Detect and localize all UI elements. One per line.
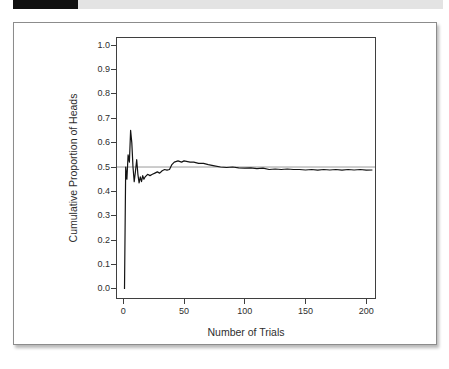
x-tick-mark <box>184 299 185 304</box>
y-tick-label: 0.0 <box>74 283 110 294</box>
y-tick-mark <box>111 69 116 70</box>
y-tick-mark <box>111 142 116 143</box>
x-tick-mark <box>305 299 306 304</box>
x-tick-mark <box>244 299 245 304</box>
y-tick-label: 0.2 <box>74 235 110 246</box>
plot-svg <box>116 37 376 299</box>
y-tick-mark <box>111 288 116 289</box>
x-tick-label: 100 <box>230 306 260 317</box>
figure-card: Number of Trials Cumulative Proportion o… <box>13 22 437 345</box>
x-tick-mark <box>366 299 367 304</box>
data-line <box>125 130 373 289</box>
x-tick-label: 150 <box>291 306 321 317</box>
y-tick-label: 1.0 <box>74 40 110 51</box>
screenshot-root: { "window": { "tab_color": "#101010", "b… <box>0 0 449 369</box>
x-tick-label: 200 <box>351 306 381 317</box>
y-tick-label: 0.4 <box>74 186 110 197</box>
y-tick-label: 0.1 <box>74 259 110 270</box>
y-tick-label: 0.7 <box>74 113 110 124</box>
y-tick-mark <box>111 118 116 119</box>
y-tick-label: 0.6 <box>74 137 110 148</box>
y-tick-label: 0.5 <box>74 162 110 173</box>
y-tick-mark <box>111 240 116 241</box>
window-active-tab[interactable] <box>13 0 78 9</box>
x-tick-label: 0 <box>108 306 138 317</box>
x-tick-mark <box>123 299 124 304</box>
y-tick-label: 0.3 <box>74 210 110 221</box>
y-tick-mark <box>111 93 116 94</box>
x-tick-label: 50 <box>169 306 199 317</box>
y-tick-mark <box>111 215 116 216</box>
x-axis-title: Number of Trials <box>116 326 376 338</box>
y-tick-mark <box>111 45 116 46</box>
y-tick-label: 0.9 <box>74 64 110 75</box>
y-tick-mark <box>111 191 116 192</box>
y-tick-label: 0.8 <box>74 88 110 99</box>
window-title-bar <box>78 0 443 9</box>
y-tick-mark <box>111 264 116 265</box>
y-tick-mark <box>111 167 116 168</box>
